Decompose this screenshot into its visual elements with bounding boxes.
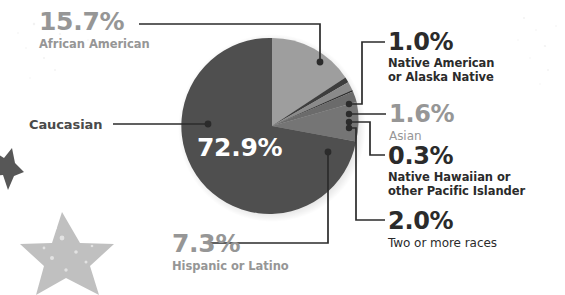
star-decoration-gray [20, 212, 114, 295]
caption-native-american-line2: or Alaska Native [388, 71, 494, 85]
leader-dot-native-american [346, 101, 352, 107]
leader-dot-asian [346, 111, 352, 117]
label-hispanic-or-latino: 7.3% Hispanic or Latino [172, 231, 289, 274]
value-two-or-more-races: 2.0% [388, 209, 497, 233]
value-african-american: 15.7% [39, 9, 150, 34]
pie-slice-two-or-more-races [272, 92, 357, 126]
value-native-american: 1.0% [388, 30, 494, 54]
label-asian: 1.6% Asian [389, 102, 454, 143]
pie-shadow [178, 34, 366, 222]
caption-african-american: African American [39, 38, 150, 52]
caption-native-hawaiian-line2: other Pacific Islander [388, 185, 525, 199]
pie-slice-native-hawaiian [272, 90, 353, 126]
pie-slice-asian [272, 82, 352, 126]
caption-native-hawaiian-line1: Native Hawaiian or [388, 171, 525, 185]
leader-dot-hispanic-or-latino [325, 149, 332, 156]
leader-dot-caucasian [205, 121, 212, 128]
leader-dot-two-or-more-races [346, 125, 352, 131]
star-decoration-dark [0, 148, 24, 190]
speckle-texture-topright [517, 17, 557, 85]
caption-native-american-line1: Native American [388, 57, 494, 71]
leader-native-hawaiian [349, 122, 385, 155]
leader-dot-native-hawaiian [346, 119, 352, 125]
pie-chart-infographic: 15.7% African American Caucasian 72.9% 1… [0, 0, 565, 295]
leader-dot-african-american [317, 59, 324, 66]
pie-slice-hispanic-or-latino [272, 102, 359, 142]
label-african-american: 15.7% African American [39, 9, 150, 52]
caption-hispanic-or-latino: Hispanic or Latino [172, 260, 289, 274]
pie-slice-native-american [272, 77, 348, 126]
value-native-hawaiian: 0.3% [388, 144, 525, 168]
pie-slice-caucasian [181, 38, 356, 214]
label-native-hawaiian: 0.3% Native Hawaiian or other Pacific Is… [388, 144, 525, 198]
pie-slice-african-american [272, 38, 345, 126]
value-caucasian: 72.9% [197, 133, 282, 162]
leader-two-or-more-races [349, 128, 385, 220]
caption-two-or-more-races: Two or more races [388, 236, 497, 250]
leader-african-american [139, 24, 320, 62]
label-native-american: 1.0% Native American or Alaska Native [388, 30, 494, 84]
leader-native-american [349, 42, 385, 104]
value-asian: 1.6% [389, 102, 454, 126]
label-caucasian: Caucasian [29, 117, 102, 132]
value-hispanic-or-latino: 7.3% [172, 231, 289, 256]
label-two-or-more-races: 2.0% Two or more races [388, 209, 497, 250]
